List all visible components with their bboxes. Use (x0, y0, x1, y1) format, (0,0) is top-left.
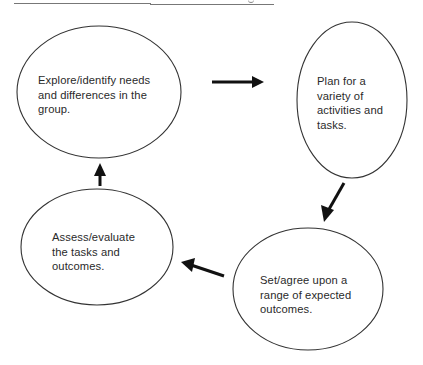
node-plan-label: Plan for a variety of activities and tas… (317, 74, 383, 132)
arrow-set-to-assess (181, 258, 224, 276)
arrow-assess-to-explore (94, 163, 106, 186)
arrow-explore-to-plan (212, 76, 264, 88)
node-set-label: Set/agree upon a range of expected outco… (260, 273, 351, 317)
cycle-diagram (0, 0, 423, 365)
arrow-plan-to-set (321, 183, 344, 222)
node-explore-label: Explore/identify needs and differences i… (38, 73, 150, 117)
node-assess-label: Assess/evaluate the tasks and outcomes. (52, 230, 135, 274)
